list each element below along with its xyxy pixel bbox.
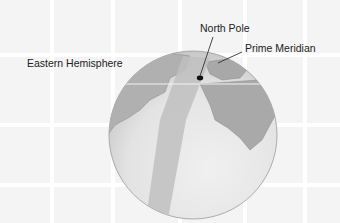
prime-meridian-label: Prime Meridian bbox=[245, 43, 316, 54]
north-pole-dot bbox=[197, 76, 203, 81]
eastern-hemisphere-label: Eastern Hemisphere bbox=[27, 58, 123, 69]
globe-diagram bbox=[0, 0, 340, 223]
north-pole-label: North Pole bbox=[200, 23, 250, 34]
